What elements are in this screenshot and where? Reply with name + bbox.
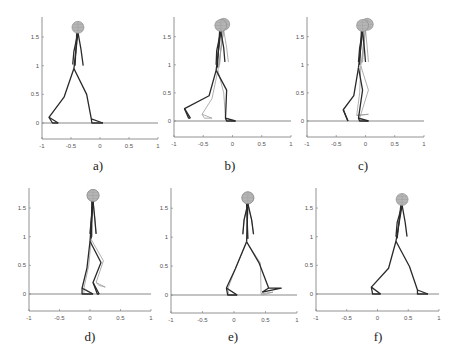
stick-figure-dark <box>82 189 101 294</box>
panel-e: -1-0.500.5100.511.5e) <box>160 188 300 344</box>
figure-canvas: -1-0.500.5100.511.5a)-1-0.500.5100.511.5… <box>0 0 458 362</box>
x-tick-label: 0 <box>376 315 380 321</box>
panel-d: -1-0.500.5100.511.5d) <box>18 188 154 344</box>
y-tick-label: 0.5 <box>296 90 305 96</box>
x-tick-label: 0 <box>232 317 236 323</box>
y-tick-label: 1.5 <box>305 205 314 211</box>
y-tick-label: 1 <box>310 234 314 240</box>
stick-figure-dark <box>371 193 428 294</box>
stick-figure-dark <box>185 19 236 121</box>
stick-figure-dark <box>49 21 103 123</box>
x-tick-label: -1 <box>39 143 45 149</box>
x-tick-label: 0.5 <box>116 315 125 321</box>
stick-figure-light <box>228 192 273 295</box>
y-tick-label: 0.5 <box>31 91 40 97</box>
y-tick-label: 1.5 <box>160 205 169 211</box>
panel-f: -1-0.500.5100.511.5f) <box>305 188 442 344</box>
x-tick-label: 0 <box>98 143 102 149</box>
x-tick-label: -0.5 <box>198 141 209 147</box>
x-tick-label: -0.5 <box>66 143 77 149</box>
stick-figure-dark <box>226 192 281 295</box>
x-tick-label: 1 <box>437 315 441 321</box>
y-tick-label: 0 <box>310 291 314 297</box>
x-tick-label: 0.5 <box>391 141 400 147</box>
y-tick-label: 0 <box>23 291 27 297</box>
x-tick-label: 1 <box>422 141 426 147</box>
y-tick-label: 0.5 <box>163 90 172 96</box>
x-tick-label: 1 <box>289 141 293 147</box>
y-tick-label: 0 <box>168 118 172 124</box>
x-tick-label: 1 <box>149 315 153 321</box>
y-tick-label: 0.5 <box>160 263 169 269</box>
x-tick-label: -0.5 <box>331 141 342 147</box>
panel-label: b) <box>225 158 236 173</box>
x-tick-label: -1 <box>171 141 177 147</box>
x-tick-label: 0 <box>364 141 368 147</box>
x-tick-label: -1 <box>313 315 319 321</box>
x-tick-label: 0 <box>88 315 92 321</box>
panel-b: -1-0.500.5100.511.5b) <box>163 17 294 173</box>
y-tick-label: 0 <box>165 292 169 298</box>
y-tick-label: 0.5 <box>305 262 314 268</box>
x-tick-label: -0.5 <box>54 315 65 321</box>
y-tick-label: 1.5 <box>296 34 305 40</box>
y-tick-label: 1.5 <box>163 34 172 40</box>
panel-label: a) <box>93 158 103 173</box>
stick-figure-light <box>202 18 235 121</box>
panel-label: e) <box>228 329 238 344</box>
y-tick-label: 0 <box>301 118 305 124</box>
panel-c: -1-0.500.5100.511.5c) <box>296 17 427 173</box>
x-tick-label: -1 <box>26 315 32 321</box>
panel-label: c) <box>358 158 368 173</box>
panel-label: d) <box>85 329 96 344</box>
y-tick-label: 1 <box>36 63 40 69</box>
y-tick-label: 1 <box>301 62 305 68</box>
x-tick-label: 0 <box>231 141 235 147</box>
x-tick-label: -0.5 <box>342 315 353 321</box>
panel-label: f) <box>374 329 383 344</box>
x-tick-label: 0.5 <box>258 141 267 147</box>
x-tick-label: 1 <box>156 143 160 149</box>
x-tick-label: 0.5 <box>125 143 134 149</box>
x-tick-label: 0.5 <box>404 315 413 321</box>
y-tick-label: 1 <box>165 234 169 240</box>
y-tick-label: 1 <box>168 62 172 68</box>
x-tick-label: 0.5 <box>261 317 270 323</box>
y-tick-label: 1.5 <box>18 205 27 211</box>
panel-a: -1-0.500.5100.511.5a) <box>31 17 161 173</box>
x-tick-label: 1 <box>295 317 299 323</box>
x-tick-label: -1 <box>168 317 174 323</box>
x-tick-label: -0.5 <box>197 317 208 323</box>
y-tick-label: 0.5 <box>18 262 27 268</box>
y-tick-label: 0 <box>36 120 40 126</box>
x-tick-label: -1 <box>304 141 310 147</box>
y-tick-label: 1 <box>23 234 27 240</box>
y-tick-label: 1.5 <box>31 34 40 40</box>
